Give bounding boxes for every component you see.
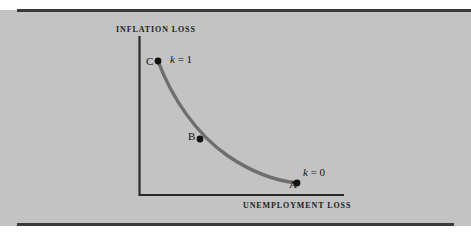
point-label-c: C	[146, 55, 153, 67]
y-axis-label: INFLATION LOSS	[116, 25, 196, 34]
annotation-k-equals-one: k = 1	[170, 53, 192, 65]
frontier-curve	[158, 61, 297, 183]
annotation-k-equals-zero: k = 0	[303, 166, 325, 178]
k-value-a: = 0	[311, 166, 325, 178]
marker-point-c	[155, 58, 162, 65]
figure-container: INFLATION LOSS UNEMPLOYMENT LOSS C B A k…	[0, 0, 471, 236]
k-symbol-c: k	[170, 53, 175, 65]
plot-area	[0, 0, 471, 236]
k-value-c: = 1	[178, 53, 192, 65]
point-label-a: A	[289, 178, 297, 190]
x-axis-label: UNEMPLOYMENT LOSS	[243, 201, 351, 210]
marker-point-b	[197, 136, 204, 143]
k-symbol-a: k	[303, 166, 308, 178]
point-label-b: B	[188, 130, 195, 142]
